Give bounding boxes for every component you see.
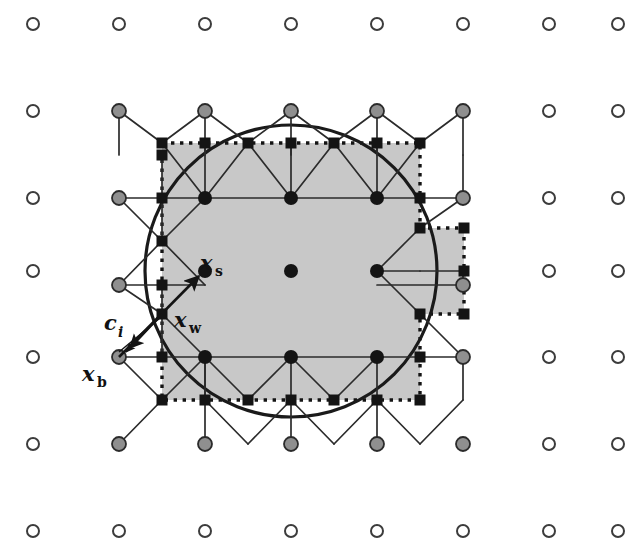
open-node bbox=[612, 265, 624, 277]
square-node bbox=[157, 138, 168, 149]
grey-node bbox=[198, 437, 212, 451]
label-x-b-base: x bbox=[81, 361, 95, 386]
square-node bbox=[415, 309, 426, 320]
label-c-i-sub: i bbox=[118, 324, 123, 340]
grey-node bbox=[456, 350, 470, 364]
square-node bbox=[157, 352, 168, 363]
open-node bbox=[543, 525, 555, 537]
square-node bbox=[200, 395, 211, 406]
open-node bbox=[27, 192, 39, 204]
open-node bbox=[27, 351, 39, 363]
open-node bbox=[543, 438, 555, 450]
square-node bbox=[459, 266, 470, 277]
square-node bbox=[157, 193, 168, 204]
square-node bbox=[459, 309, 470, 320]
black-node bbox=[370, 191, 384, 205]
open-node bbox=[27, 438, 39, 450]
label-x-s-sub: s bbox=[215, 263, 223, 279]
grey-node bbox=[112, 104, 126, 118]
square-node bbox=[459, 223, 470, 234]
square-node bbox=[157, 150, 168, 161]
square-node bbox=[329, 395, 340, 406]
open-node bbox=[285, 525, 297, 537]
open-node bbox=[113, 18, 125, 30]
open-node bbox=[199, 18, 211, 30]
label-x-w-base: x bbox=[173, 307, 187, 332]
open-node bbox=[371, 18, 383, 30]
grey-node bbox=[456, 278, 470, 292]
open-node bbox=[457, 18, 469, 30]
black-node bbox=[284, 350, 298, 364]
square-node bbox=[415, 193, 426, 204]
grey-node bbox=[456, 104, 470, 118]
grey-node bbox=[456, 437, 470, 451]
square-node bbox=[372, 138, 383, 149]
square-node bbox=[243, 395, 254, 406]
open-node bbox=[543, 265, 555, 277]
square-node bbox=[372, 395, 383, 406]
label-x-s-base: x bbox=[199, 250, 213, 275]
lattice-diagram-svg: x s x w c i x b bbox=[0, 0, 636, 560]
open-node bbox=[612, 18, 624, 30]
square-node bbox=[200, 138, 211, 149]
open-node bbox=[27, 105, 39, 117]
open-node bbox=[113, 525, 125, 537]
square-node bbox=[157, 236, 168, 247]
square-node bbox=[243, 138, 254, 149]
black-node bbox=[370, 264, 384, 278]
square-node bbox=[286, 138, 297, 149]
open-node bbox=[612, 192, 624, 204]
open-node bbox=[612, 525, 624, 537]
square-node bbox=[415, 395, 426, 406]
open-node bbox=[543, 18, 555, 30]
black-node bbox=[284, 264, 298, 278]
figure-root: x s x w c i x b bbox=[0, 0, 636, 560]
grey-node bbox=[370, 437, 384, 451]
label-x-w-sub: w bbox=[188, 320, 202, 336]
black-node bbox=[370, 350, 384, 364]
open-node bbox=[457, 525, 469, 537]
square-node bbox=[415, 352, 426, 363]
open-node bbox=[543, 105, 555, 117]
open-node bbox=[199, 525, 211, 537]
open-node bbox=[27, 525, 39, 537]
black-node bbox=[284, 191, 298, 205]
label-x-b-sub: b bbox=[97, 374, 107, 390]
square-node bbox=[286, 395, 297, 406]
open-node bbox=[612, 105, 624, 117]
open-node bbox=[543, 192, 555, 204]
open-node bbox=[543, 351, 555, 363]
grey-node bbox=[112, 278, 126, 292]
grey-node bbox=[112, 437, 126, 451]
open-node bbox=[612, 438, 624, 450]
grey-node bbox=[456, 191, 470, 205]
grey-node bbox=[370, 104, 384, 118]
open-node bbox=[27, 265, 39, 277]
open-node bbox=[371, 525, 383, 537]
open-node bbox=[612, 351, 624, 363]
grey-node bbox=[284, 437, 298, 451]
square-node bbox=[415, 138, 426, 149]
grey-node bbox=[112, 191, 126, 205]
open-node bbox=[285, 18, 297, 30]
black-node bbox=[198, 350, 212, 364]
grey-node bbox=[284, 104, 298, 118]
black-node bbox=[198, 191, 212, 205]
label-c-i-base: c bbox=[104, 310, 117, 335]
square-node bbox=[157, 280, 168, 291]
open-node bbox=[27, 18, 39, 30]
square-node bbox=[329, 138, 340, 149]
grey-node bbox=[198, 104, 212, 118]
square-node bbox=[415, 223, 426, 234]
square-node bbox=[157, 395, 168, 406]
